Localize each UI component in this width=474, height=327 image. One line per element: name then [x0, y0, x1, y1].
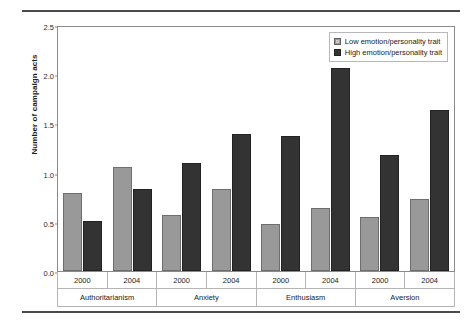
x-axis-category-label: Enthusiasm — [256, 289, 355, 307]
bar-group — [108, 27, 158, 271]
bar-group — [405, 27, 455, 271]
legend-label-low: Low emotion/personality trait — [345, 37, 440, 46]
legend-label-high: High emotion/personality trait — [345, 48, 442, 57]
bar-high — [133, 189, 152, 271]
x-axis-year-label: 2000 — [57, 272, 107, 289]
x-axis-category-label: Authoritarianism — [57, 289, 156, 307]
x-axis-year-label: 2000 — [256, 272, 306, 289]
x-axis-category-label: Anxiety — [156, 289, 255, 307]
bottom-rule — [22, 311, 460, 313]
x-axis-year-label: 2004 — [107, 272, 157, 289]
bar-groups — [58, 27, 454, 271]
bar-low — [360, 217, 379, 271]
bar-high — [380, 155, 399, 271]
top-rule — [22, 10, 460, 12]
x-axis-category-label: Aversion — [355, 289, 455, 307]
legend-item-high: High emotion/personality trait — [334, 47, 442, 58]
plot-area: 2.52.01.51.00.50.0 Low emotion/personali… — [57, 26, 455, 272]
x-axis-year-label: 2000 — [355, 272, 405, 289]
y-axis-title: Number of campaign acts — [30, 25, 39, 185]
x-axis: 20002004200020042000200420002004 Authori… — [57, 272, 455, 307]
bar-high — [430, 110, 449, 271]
x-axis-year-label: 2004 — [404, 272, 455, 289]
bar-group — [256, 27, 306, 271]
bar-group — [355, 27, 405, 271]
legend: Low emotion/personality trait High emoti… — [329, 32, 448, 62]
bar-low — [311, 208, 330, 271]
bar-high — [182, 163, 201, 271]
bar-group — [207, 27, 257, 271]
bar-group — [157, 27, 207, 271]
bar-high — [83, 221, 102, 271]
bar-high — [331, 68, 350, 271]
bar-high — [232, 134, 251, 271]
legend-swatch-high-icon — [334, 49, 341, 56]
bar-low — [212, 189, 231, 271]
x-axis-year-label: 2004 — [305, 272, 355, 289]
bar-group — [58, 27, 108, 271]
bar-low — [63, 193, 82, 271]
x-axis-year-label: 2000 — [156, 272, 206, 289]
legend-item-low: Low emotion/personality trait — [334, 36, 442, 47]
bar-low — [410, 199, 429, 271]
bar-high — [281, 136, 300, 271]
x-axis-category-tier: AuthoritarianismAnxietyEnthusiasmAversio… — [57, 289, 455, 307]
figure: Number of campaign acts 2.52.01.51.00.50… — [0, 0, 474, 327]
legend-swatch-low-icon — [334, 38, 341, 45]
bar-low — [162, 215, 181, 271]
x-axis-year-tier: 20002004200020042000200420002004 — [57, 272, 455, 289]
x-axis-year-label: 2004 — [206, 272, 256, 289]
bar-low — [113, 167, 132, 271]
bar-group — [306, 27, 356, 271]
bar-low — [261, 224, 280, 271]
